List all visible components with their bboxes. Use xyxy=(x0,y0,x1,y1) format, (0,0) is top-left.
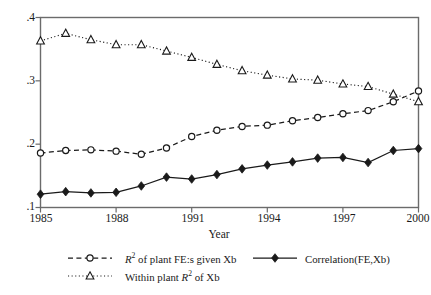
data-point-s2-2 xyxy=(87,35,95,42)
y-tick-label-2: .2 xyxy=(19,138,35,150)
data-point-s2-0 xyxy=(37,37,45,44)
data-point-s0-6 xyxy=(189,133,195,139)
y-tick-label-3: .1 xyxy=(19,201,35,213)
data-point-s1-legend xyxy=(272,254,279,263)
legend-italic-r: R xyxy=(125,253,132,265)
series-0 xyxy=(37,88,421,158)
data-point-s0-11 xyxy=(315,114,321,120)
legend-rest-2: Correlation(FE,Xb) xyxy=(305,253,390,265)
data-point-s1-0 xyxy=(37,190,44,199)
x-axis-title: Year xyxy=(189,229,249,241)
data-point-s1-6 xyxy=(188,175,195,184)
data-point-s2-6 xyxy=(188,53,196,60)
legend-label-within-plant-r2: Within plant R2 of Xb xyxy=(125,272,220,283)
data-point-s2-14 xyxy=(389,90,397,97)
plot-svg xyxy=(0,0,431,295)
data-point-s0-2 xyxy=(88,147,94,153)
data-point-s2-3 xyxy=(112,41,120,48)
data-point-s0-legend xyxy=(87,255,93,261)
y-axis-ticks xyxy=(36,18,41,208)
data-point-s0-0 xyxy=(37,150,43,156)
data-point-s0-12 xyxy=(340,111,346,117)
x-tick-label-5: 2000 xyxy=(397,213,431,225)
data-point-s0-13 xyxy=(365,108,371,114)
data-point-s0-14 xyxy=(390,99,396,105)
series-2 xyxy=(37,29,423,105)
data-point-s1-8 xyxy=(239,165,246,174)
series-line-0 xyxy=(41,91,419,154)
legend-marker-correlation-fe-xb xyxy=(253,254,297,263)
data-point-s2-15 xyxy=(415,98,423,105)
legend-marker-r2-plant-fe xyxy=(68,255,112,261)
series-1 xyxy=(37,144,422,198)
plot-frame xyxy=(41,18,419,208)
data-point-s0-5 xyxy=(163,145,169,151)
series-line-1 xyxy=(41,149,419,195)
data-point-s1-5 xyxy=(163,173,170,182)
x-tick-label-3: 1994 xyxy=(248,213,290,225)
data-point-s2-legend xyxy=(86,272,94,279)
data-point-s1-1 xyxy=(62,187,69,196)
data-point-s0-8 xyxy=(239,123,245,129)
x-tick-label-2: 1991 xyxy=(172,213,214,225)
data-point-s0-7 xyxy=(214,127,220,133)
data-point-s1-12 xyxy=(340,153,347,162)
chart-figure: .4 .3 .2 .1 1985 1988 1991 1994 1997 200… xyxy=(0,0,431,295)
data-point-s0-9 xyxy=(264,122,270,128)
data-point-s0-15 xyxy=(415,88,421,94)
data-point-s1-11 xyxy=(314,154,321,163)
legend-rest-3: of Xb xyxy=(192,271,220,283)
data-point-s1-7 xyxy=(214,170,221,179)
legend-marker-within-plant-r2 xyxy=(68,272,112,279)
data-point-s1-13 xyxy=(365,158,372,167)
chart-canvas: .4 .3 .2 .1 1985 1988 1991 1994 1997 200… xyxy=(0,0,431,295)
data-point-s0-3 xyxy=(113,148,119,154)
data-point-s1-2 xyxy=(88,189,95,198)
data-point-s1-9 xyxy=(264,161,271,170)
data-point-s0-10 xyxy=(289,118,295,124)
x-tick-label-1: 1988 xyxy=(96,213,138,225)
legend-prefix-3: Within plant xyxy=(125,271,182,283)
series-layer xyxy=(37,29,423,198)
data-point-s1-14 xyxy=(390,146,397,155)
data-point-s1-15 xyxy=(415,144,422,153)
y-tick-label-1: .3 xyxy=(19,75,35,87)
legend-label-correlation-fe-xb: Correlation(FE,Xb) xyxy=(305,254,390,265)
legend-rest: of plant FE:s given Xb xyxy=(135,253,236,265)
data-point-s0-4 xyxy=(138,151,144,157)
data-point-s2-9 xyxy=(263,71,271,78)
data-point-s1-10 xyxy=(289,158,296,167)
series-line-2 xyxy=(41,33,419,101)
x-axis-ticks xyxy=(41,208,419,213)
x-tick-label-4: 1997 xyxy=(323,213,365,225)
data-point-s2-4 xyxy=(137,41,145,48)
data-point-s2-8 xyxy=(238,67,246,74)
data-point-s1-3 xyxy=(113,188,120,197)
y-tick-label-0: .4 xyxy=(19,12,35,24)
legend-label-r2-plant-fe: R2 of plant FE:s given Xb xyxy=(125,254,236,265)
x-tick-label-0: 1985 xyxy=(20,213,62,225)
data-point-s1-4 xyxy=(138,182,145,191)
data-point-s0-1 xyxy=(63,147,69,153)
data-point-s2-1 xyxy=(62,29,70,36)
data-point-s2-7 xyxy=(213,60,221,67)
